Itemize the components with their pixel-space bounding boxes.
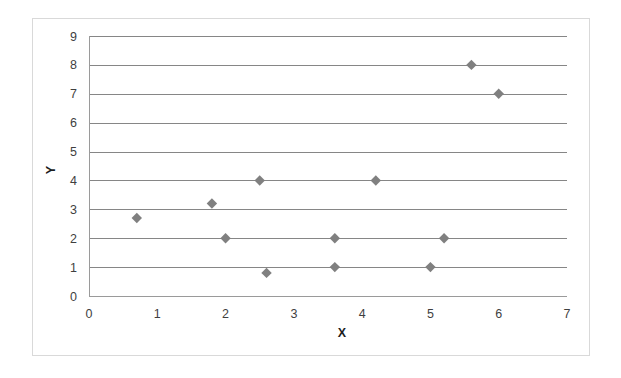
y-axis-tick-labels: 0123456789 xyxy=(70,30,77,304)
data-point-marker xyxy=(255,175,265,185)
scatter-plot: 0123456789 01234567 X Y xyxy=(33,19,591,357)
x-tick-label: 7 xyxy=(564,307,571,321)
data-point-marker xyxy=(466,60,476,70)
y-tick-label: 0 xyxy=(70,290,77,304)
y-tick-label: 5 xyxy=(70,145,77,159)
x-tick-label: 1 xyxy=(154,307,161,321)
x-axis-tick-labels: 01234567 xyxy=(86,307,571,321)
gridlines xyxy=(89,37,567,268)
x-tick-label: 6 xyxy=(495,307,502,321)
data-point-marker xyxy=(494,89,504,99)
y-axis-title: Y xyxy=(44,165,58,174)
data-point-marker xyxy=(330,262,340,272)
data-point-marker xyxy=(207,198,217,208)
y-tick-label: 2 xyxy=(70,232,77,246)
x-tick-label: 5 xyxy=(427,307,434,321)
data-point-marker xyxy=(132,213,142,223)
data-point-marker xyxy=(425,262,435,272)
data-points xyxy=(132,60,504,278)
x-tick-label: 2 xyxy=(222,307,229,321)
y-tick-label: 1 xyxy=(70,261,77,275)
x-axis-title: X xyxy=(338,326,347,340)
y-tick-label: 8 xyxy=(70,58,77,72)
y-tick-label: 9 xyxy=(70,30,77,44)
data-point-marker xyxy=(261,268,271,278)
y-tick-label: 6 xyxy=(70,116,77,130)
axes xyxy=(89,36,567,297)
data-point-marker xyxy=(439,233,449,243)
y-tick-label: 4 xyxy=(70,174,77,188)
data-point-marker xyxy=(220,233,230,243)
x-tick-label: 4 xyxy=(359,307,366,321)
chart-frame: 0123456789 01234567 X Y xyxy=(32,18,590,356)
y-tick-label: 7 xyxy=(70,87,77,101)
y-tick-label: 3 xyxy=(70,203,77,217)
x-tick-label: 0 xyxy=(86,307,93,321)
x-tick-label: 3 xyxy=(290,307,297,321)
data-point-marker xyxy=(330,233,340,243)
data-point-marker xyxy=(371,175,381,185)
